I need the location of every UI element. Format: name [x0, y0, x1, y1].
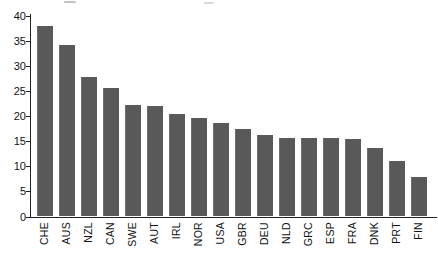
x-tick-label-fin: FIN	[412, 222, 424, 240]
bar-aut	[147, 106, 163, 217]
bar-nzl	[81, 77, 97, 216]
bar-usa	[213, 123, 229, 217]
bar-gbr	[235, 129, 251, 216]
x-tick-label-swe: SWE	[126, 222, 138, 247]
y-tick-mark	[26, 191, 30, 192]
y-axis-line	[30, 14, 31, 218]
x-tick-label-aut: AUT	[148, 222, 160, 244]
bar-prt	[389, 161, 405, 217]
y-tick-label: 5	[0, 185, 26, 197]
x-tick-label-che: CHE	[38, 222, 50, 245]
bar-nor	[191, 118, 207, 216]
bar-fra	[345, 139, 361, 217]
y-tick-mark	[26, 166, 30, 167]
x-tick-label-aus: AUS	[60, 222, 72, 245]
bar-grc	[301, 138, 317, 217]
x-tick-label-fra: FRA	[346, 222, 358, 244]
x-tick-label-usa: USA	[214, 222, 226, 245]
x-tick-label-nor: NOR	[192, 222, 204, 246]
x-tick-label-nzl: NZL	[82, 222, 94, 243]
y-tick-mark	[26, 141, 30, 142]
x-tick-label-grc: GRC	[302, 222, 314, 246]
y-tick-label: 30	[0, 60, 26, 72]
y-tick-mark	[26, 66, 30, 67]
y-tick-mark	[26, 41, 30, 42]
x-tick-label-prt: PRT	[390, 222, 402, 244]
bar-chart: 0510152025303540 CHEAUSNZLCANSWEAUTIRLNO…	[0, 0, 438, 263]
y-tick-mark	[26, 16, 30, 17]
y-tick-label: 10	[0, 160, 26, 172]
cropped-text-artifact	[64, 1, 76, 3]
y-tick-label: 20	[0, 110, 26, 122]
x-tick-label-irl: IRL	[170, 222, 182, 239]
x-tick-label-can: CAN	[104, 222, 116, 245]
y-tick-label: 35	[0, 35, 26, 47]
bar-nld	[279, 138, 295, 217]
x-tick-label-esp: ESP	[324, 222, 336, 244]
cropped-text-artifact	[204, 2, 214, 4]
x-tick-label-gbr: GBR	[236, 222, 248, 246]
bar-aus	[59, 45, 75, 217]
y-tick-mark	[26, 91, 30, 92]
y-tick-label: 15	[0, 135, 26, 147]
y-tick-label: 40	[0, 10, 26, 22]
bar-dnk	[367, 148, 383, 216]
bar-swe	[125, 105, 141, 217]
bar-che	[37, 26, 53, 216]
y-tick-mark	[26, 116, 30, 117]
bar-deu	[257, 135, 273, 217]
bar-can	[103, 88, 119, 217]
y-tick-label: 25	[0, 85, 26, 97]
bar-irl	[169, 114, 185, 216]
y-tick-label: 0	[0, 211, 26, 223]
bar-fin	[411, 177, 427, 216]
x-axis-line	[30, 217, 437, 218]
x-tick-label-nld: NLD	[280, 222, 292, 244]
x-tick-label-deu: DEU	[258, 222, 270, 245]
x-tick-label-dnk: DNK	[368, 222, 380, 245]
bar-esp	[323, 138, 339, 217]
